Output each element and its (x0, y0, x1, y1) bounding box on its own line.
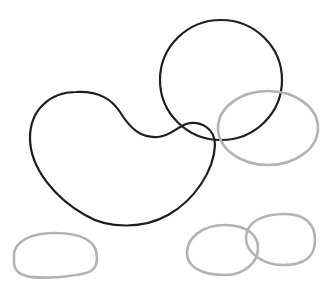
bottom-left-oval (14, 233, 97, 278)
large-circle (160, 20, 282, 140)
diagram-canvas (0, 0, 336, 296)
right-ellipse (218, 91, 318, 165)
curves-drawing (0, 0, 336, 296)
kidney-shape (30, 92, 215, 226)
